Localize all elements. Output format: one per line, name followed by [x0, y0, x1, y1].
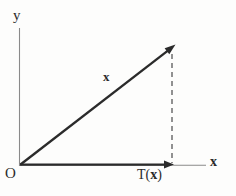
vector-tx-label-suffix: ) — [157, 167, 162, 182]
vector-tx-label: T(x) — [137, 168, 162, 182]
vector-x-shaft — [21, 49, 171, 165]
vector-x-label: x — [103, 70, 110, 83]
vector-tx-label-prefix: T( — [137, 167, 150, 182]
origin-label: O — [5, 166, 16, 181]
diagram-canvas — [0, 0, 236, 196]
vector-diagram-figure: y O x x T(x) — [0, 0, 236, 196]
vector-tx-arrowhead — [164, 161, 174, 169]
x-axis-label: x — [210, 155, 217, 169]
y-axis-label: y — [13, 8, 21, 23]
